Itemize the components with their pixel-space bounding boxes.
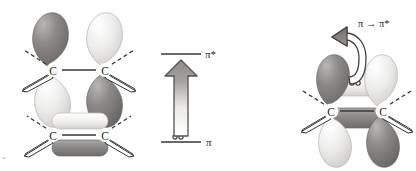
atom-right-bottom-label: C <box>101 130 109 142</box>
right-lobe-upper-right-light <box>365 55 398 106</box>
left-top-structure: C C <box>22 13 136 128</box>
bond-wedge-right-bottom-2 <box>105 139 134 157</box>
level-label-pi: π <box>206 136 212 148</box>
atom-left-top-label: C <box>49 65 57 77</box>
figure-canvas: C C C C π* <box>0 0 416 171</box>
level-label-pi-star: π* <box>205 48 216 60</box>
pi-to-pi-star-figure: C C C C π* <box>0 0 416 171</box>
atom-left-bottom-label: C <box>49 130 57 142</box>
lobe-pi-top-light <box>52 113 108 129</box>
energy-level-diagram: π* π <box>161 48 216 148</box>
bond-wedge-left-bottom-2 <box>24 139 53 157</box>
right-atom-left-label: C <box>327 106 335 118</box>
lobe-upper-left-dark <box>33 13 69 66</box>
right-atom-right-label: C <box>379 106 387 118</box>
excitation-arrow <box>165 60 197 136</box>
lobe-pi-bottom-dark <box>52 140 108 156</box>
atom-right-top: C <box>98 63 112 77</box>
atom-left-top: C <box>46 63 60 77</box>
right-lobe-upper-left-dark <box>317 55 350 106</box>
page-mark-dot <box>3 157 5 159</box>
lobe-upper-right-light <box>87 13 123 66</box>
right-structure: C C π → π* <box>301 18 413 167</box>
right-atom-right: C <box>376 104 391 119</box>
transition-label: π → π* <box>358 18 390 29</box>
atom-right-bottom: C <box>98 128 112 142</box>
atom-right-top-label: C <box>101 65 109 77</box>
atom-left-bottom: C <box>46 128 60 142</box>
electron-promotion-arrowhead <box>332 27 347 46</box>
right-atom-left: C <box>324 104 339 119</box>
